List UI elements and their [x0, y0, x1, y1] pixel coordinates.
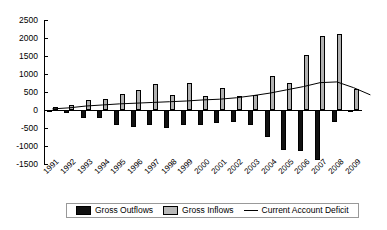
x-tick-label: 2009 [344, 158, 362, 176]
y-tick-mark [44, 92, 48, 93]
x-tick-label: 1998 [160, 158, 178, 176]
chart-legend: Gross Outflows Gross Inflows Current Acc… [66, 203, 359, 218]
x-tick-label: 1999 [177, 158, 195, 176]
y-tick-mark [44, 146, 48, 147]
x-axis-labels: 1991199219931994199519961997199819992000… [0, 0, 387, 230]
x-tick-label: 2004 [260, 158, 278, 176]
x-tick-label: 2002 [227, 158, 245, 176]
current-account-chart: 25002000150010005000-500-1000-1500 19911… [0, 0, 387, 230]
x-tick-label: 1994 [93, 158, 111, 176]
legend-label-deficit: Current Account Deficit [262, 206, 349, 215]
x-tick-label: 2008 [327, 158, 345, 176]
x-tick-label: 1993 [76, 158, 94, 176]
x-tick-label: 1997 [143, 158, 161, 176]
x-tick-label: 2007 [310, 158, 328, 176]
x-tick-label: 2003 [244, 158, 262, 176]
x-tick-label: 1995 [110, 158, 128, 176]
x-tick-label: 2000 [193, 158, 211, 176]
legend-item-gross-outflows: Gross Outflows [76, 206, 153, 215]
y-tick-mark [44, 128, 48, 129]
legend-swatch-inflows-icon [163, 206, 178, 215]
y-tick-mark [44, 110, 48, 111]
legend-item-current-account-deficit: Current Account Deficit [244, 206, 349, 215]
legend-swatch-outflows-icon [76, 206, 91, 215]
y-tick-mark [44, 56, 48, 57]
x-tick-label: 1991 [43, 158, 61, 176]
x-tick-label: 2005 [277, 158, 295, 176]
y-tick-mark [44, 20, 48, 21]
x-tick-label: 2006 [294, 158, 312, 176]
y-tick-mark [44, 74, 48, 75]
y-tick-mark [44, 38, 48, 39]
legend-swatch-line-icon [244, 210, 258, 211]
x-tick-label: 2001 [210, 158, 228, 176]
legend-label-inflows: Gross Inflows [182, 206, 234, 215]
legend-item-gross-inflows: Gross Inflows [163, 206, 234, 215]
y-tick-mark [44, 164, 48, 165]
x-tick-label: 1992 [59, 158, 77, 176]
x-tick-label: 1996 [126, 158, 144, 176]
legend-label-outflows: Gross Outflows [95, 206, 153, 215]
